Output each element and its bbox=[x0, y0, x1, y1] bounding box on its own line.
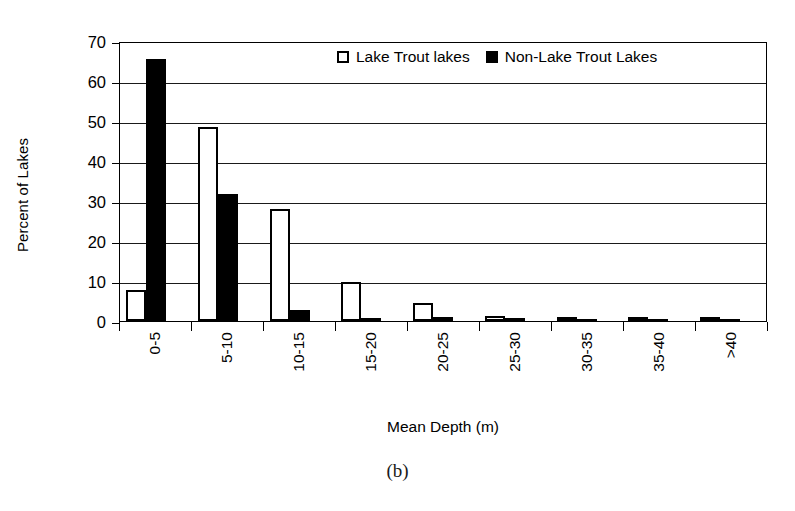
x-axis-category-label: 15-20 bbox=[361, 332, 381, 404]
x-axis-title: Mean Depth (m) bbox=[119, 418, 767, 436]
bar-lake-trout bbox=[557, 317, 577, 321]
y-axis-tick-label: 70 bbox=[46, 34, 106, 51]
bar-group bbox=[551, 43, 623, 321]
x-axis-tick bbox=[479, 322, 480, 331]
x-axis-tick bbox=[335, 322, 336, 331]
bar-lake-trout bbox=[628, 317, 648, 321]
x-axis-ticks bbox=[119, 322, 767, 332]
hollow-square-icon bbox=[337, 51, 349, 63]
chart-legend: Lake Trout lakesNon-Lake Trout Lakes bbox=[335, 43, 659, 71]
y-axis-tick bbox=[112, 243, 120, 244]
y-axis-tick-label: 60 bbox=[46, 74, 106, 91]
bar-non-lake-trout bbox=[648, 319, 668, 322]
y-axis-tick-labels: 010203040506070 bbox=[0, 42, 112, 322]
bar-non-lake-trout bbox=[290, 310, 310, 321]
x-axis-category-label: 30-35 bbox=[577, 332, 597, 404]
y-axis-tick-label: 50 bbox=[46, 114, 106, 131]
x-axis-tick bbox=[407, 322, 408, 331]
bar-lake-trout bbox=[413, 303, 433, 321]
legend-item: Lake Trout lakes bbox=[337, 48, 470, 66]
bar-group bbox=[335, 43, 407, 321]
y-axis-tick-label: 10 bbox=[46, 274, 106, 291]
bar-non-lake-trout bbox=[505, 318, 525, 321]
y-axis-tick bbox=[112, 123, 120, 124]
bar-group bbox=[694, 43, 766, 321]
y-axis-tick bbox=[112, 283, 120, 284]
y-axis-tick-label: 30 bbox=[46, 194, 106, 211]
legend-label: Non-Lake Trout Lakes bbox=[505, 48, 658, 66]
y-axis-tick bbox=[112, 43, 120, 44]
bar-lake-trout bbox=[198, 127, 218, 321]
bar-lake-trout bbox=[126, 290, 146, 321]
x-axis-tick bbox=[191, 322, 192, 331]
figure-panel-b: Percent of Lakes 010203040506070 0-55-10… bbox=[0, 0, 795, 511]
x-axis-tick bbox=[551, 322, 552, 331]
y-axis-tick bbox=[112, 203, 120, 204]
x-axis-tick bbox=[767, 322, 768, 331]
bar-groups bbox=[120, 43, 766, 321]
bar-non-lake-trout bbox=[146, 59, 166, 321]
bar-group bbox=[622, 43, 694, 321]
x-axis-category-labels: 0-55-1010-1515-2020-2525-3030-3535-40>40 bbox=[119, 332, 767, 404]
bar-non-lake-trout bbox=[218, 194, 238, 321]
bar-group bbox=[479, 43, 551, 321]
filled-square-icon bbox=[486, 51, 498, 63]
plot-area bbox=[119, 42, 767, 322]
bar-lake-trout bbox=[485, 316, 505, 321]
x-axis-tick bbox=[623, 322, 624, 331]
bar-lake-trout bbox=[341, 282, 361, 321]
x-axis-category-label: 0-5 bbox=[145, 332, 165, 404]
bar-group bbox=[192, 43, 264, 321]
x-axis-tick bbox=[263, 322, 264, 331]
bar-lake-trout bbox=[270, 209, 290, 321]
y-axis-tick bbox=[112, 83, 120, 84]
bar-group bbox=[407, 43, 479, 321]
y-axis-tick-label: 40 bbox=[46, 154, 106, 171]
y-axis-tick-label: 0 bbox=[46, 314, 106, 331]
bar-group bbox=[120, 43, 192, 321]
bar-non-lake-trout bbox=[433, 317, 453, 321]
x-axis-category-label: 25-30 bbox=[505, 332, 525, 404]
bar-non-lake-trout bbox=[577, 319, 597, 322]
bar-group bbox=[264, 43, 336, 321]
bar-non-lake-trout bbox=[361, 318, 381, 321]
legend-item: Non-Lake Trout Lakes bbox=[486, 48, 658, 66]
x-axis-tick bbox=[695, 322, 696, 331]
bar-non-lake-trout bbox=[720, 319, 740, 322]
bar-lake-trout bbox=[700, 317, 720, 321]
x-axis-category-label: >40 bbox=[721, 332, 741, 404]
legend-label: Lake Trout lakes bbox=[356, 48, 470, 66]
figure-caption: (b) bbox=[0, 460, 795, 482]
x-axis-category-label: 10-15 bbox=[289, 332, 309, 404]
y-axis-tick bbox=[112, 163, 120, 164]
x-axis-category-label: 5-10 bbox=[217, 332, 237, 404]
y-axis-tick-label: 20 bbox=[46, 234, 106, 251]
x-axis-tick bbox=[119, 322, 120, 331]
x-axis-category-label: 20-25 bbox=[433, 332, 453, 404]
x-axis-category-label: 35-40 bbox=[649, 332, 669, 404]
